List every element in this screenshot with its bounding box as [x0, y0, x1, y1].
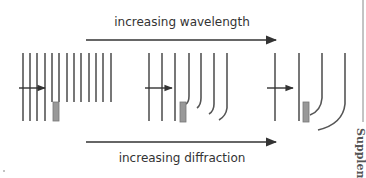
barrier-1: [53, 102, 59, 121]
panel-long-wavelength: [275, 53, 345, 130]
bottom-label: increasing diffraction: [119, 151, 246, 165]
wave-diffraction-diagram: increasing wavelength: [0, 0, 366, 178]
panel-medium-wavelength: [149, 53, 227, 121]
top-label: increasing wavelength: [114, 15, 249, 29]
side-label: Supplement: [354, 128, 366, 178]
barrier-2: [180, 102, 186, 122]
panel-short-wavelength: [23, 53, 111, 121]
barrier-3: [303, 102, 309, 122]
stray-mark: [3, 170, 5, 172]
